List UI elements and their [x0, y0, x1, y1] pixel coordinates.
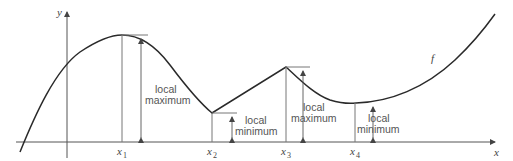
svg-text:3: 3 [287, 151, 291, 160]
annotation-4-line2: minimum [357, 123, 400, 135]
x1-label: x 1 [116, 145, 127, 160]
x-axis-label: x [493, 146, 499, 158]
x3-label: x 3 [280, 145, 291, 160]
svg-text:x: x [280, 145, 286, 157]
function-label: f [431, 52, 436, 64]
local-extrema-diagram: x y f local maximum local minimum local … [0, 0, 513, 161]
annotation-2-line2: minimum [235, 125, 278, 137]
svg-text:1: 1 [123, 151, 127, 160]
svg-text:2: 2 [213, 151, 217, 160]
svg-text:4: 4 [356, 151, 360, 160]
annotation-1-line2: maximum [145, 94, 191, 106]
annotation-3-line2: maximum [291, 112, 337, 124]
svg-text:x: x [206, 145, 212, 157]
x4-label: x 4 [349, 145, 360, 160]
y-axis-label: y [56, 6, 62, 18]
x2-label: x 2 [206, 145, 217, 160]
svg-text:x: x [116, 145, 122, 157]
svg-text:x: x [349, 145, 355, 157]
